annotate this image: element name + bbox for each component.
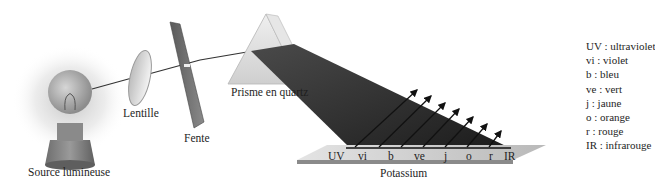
label-slit: Fente	[184, 132, 210, 144]
legend-item: ve : vert	[586, 82, 655, 96]
legend-item: r : rouge	[586, 124, 655, 138]
legend-item: j : jaune	[586, 96, 655, 110]
band-red: r	[489, 150, 493, 162]
legend-item: IR : infrarouge	[586, 138, 655, 152]
label-source: Source lumineuse	[28, 166, 110, 178]
band-blue: b	[388, 150, 394, 162]
band-ir: IR	[504, 150, 516, 162]
light-source	[12, 45, 128, 170]
label-potassium: Potassium	[380, 167, 427, 179]
legend: UV : ultraviolet vi : violet b : bleu ve…	[586, 39, 655, 153]
band-yellow: j	[444, 150, 447, 162]
band-green: ve	[414, 150, 425, 162]
legend-item: vi : violet	[586, 53, 655, 67]
lens	[124, 49, 155, 108]
label-prism: Prisme en quartz	[231, 86, 308, 98]
slit-plate	[170, 22, 204, 128]
legend-item: UV : ultraviolet	[586, 39, 655, 53]
legend-item: o : orange	[586, 110, 655, 124]
label-lens: Lentille	[123, 107, 159, 119]
band-violet: vi	[358, 150, 367, 162]
band-orange: o	[466, 150, 472, 162]
band-uv: UV	[328, 150, 345, 162]
legend-item: b : bleu	[586, 67, 655, 81]
